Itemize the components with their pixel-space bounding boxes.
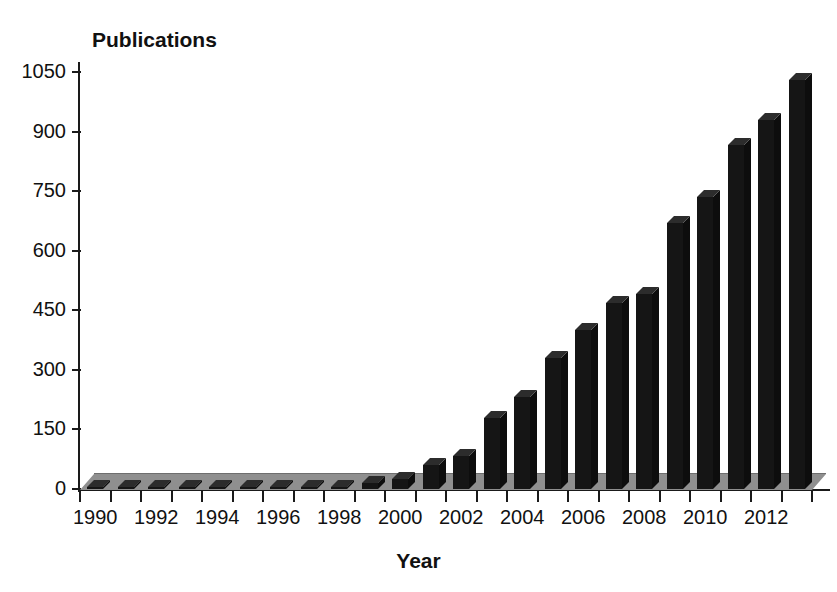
bar-side-face (469, 449, 476, 489)
bar-side-face (713, 190, 720, 489)
bar (453, 456, 469, 489)
x-axis-tick (750, 491, 752, 502)
x-axis-tick-label: 1992 (126, 506, 186, 528)
bar-side-face (805, 73, 812, 489)
x-axis-tick-label: 2000 (370, 506, 430, 528)
bar (179, 487, 195, 489)
bar-side-face (683, 216, 690, 489)
x-axis-tick-label: 1996 (248, 506, 308, 528)
bar-side-face (561, 351, 568, 489)
bar (728, 145, 744, 489)
bar-chart: Publications 01503004506007509001050 199… (0, 0, 837, 592)
y-axis-tick-label: 1050 (0, 61, 66, 81)
bar-side-face (774, 113, 781, 489)
x-axis-tick-label: 2008 (614, 506, 674, 528)
bar (667, 223, 683, 489)
x-axis-tick (201, 491, 203, 502)
bar (148, 487, 164, 489)
x-axis-tick-label: 2012 (736, 506, 796, 528)
x-axis-tick (567, 491, 569, 502)
x-axis-title: Year (0, 549, 837, 573)
bar (575, 330, 591, 489)
x-axis-tick (537, 491, 539, 502)
y-axis-tick (72, 250, 81, 252)
bar (423, 465, 439, 489)
bar-side-face (500, 411, 507, 489)
bar (118, 487, 134, 489)
x-axis-tick (140, 491, 142, 502)
x-axis-tick (232, 491, 234, 502)
x-axis-tick-label: 2002 (431, 506, 491, 528)
x-axis-tick-label: 1990 (65, 506, 125, 528)
bar (789, 80, 805, 489)
y-axis-tick-label: 600 (0, 240, 66, 260)
x-axis-tick (628, 491, 630, 502)
bar (362, 483, 378, 489)
x-axis-tick (445, 491, 447, 502)
x-axis-tick (689, 491, 691, 502)
bar (209, 487, 225, 489)
x-axis-tick (659, 491, 661, 502)
y-axis-tick (72, 71, 81, 73)
x-axis-tick (384, 491, 386, 502)
y-axis-tick-label: 450 (0, 299, 66, 319)
bar (240, 487, 256, 489)
x-axis-tick (171, 491, 173, 502)
x-axis-tick (110, 491, 112, 502)
bar (636, 294, 652, 489)
x-axis-tick (598, 491, 600, 502)
y-axis-tick-label: 0 (0, 478, 66, 498)
y-axis-tick-label: 900 (0, 121, 66, 141)
bar (758, 120, 774, 489)
y-axis-tick (72, 428, 81, 430)
bar (606, 303, 622, 489)
y-axis-title: Publications (92, 28, 217, 52)
x-axis-tick-label: 1994 (187, 506, 247, 528)
x-axis-tick (262, 491, 264, 502)
bar-side-face (622, 296, 629, 489)
y-axis-tick-label: 750 (0, 180, 66, 200)
x-axis-tick-label: 1998 (309, 506, 369, 528)
bar-side-face (744, 138, 751, 489)
x-axis-tick (720, 491, 722, 502)
y-axis-tick-label: 150 (0, 418, 66, 438)
bar-side-face (530, 390, 537, 489)
x-axis-tick (506, 491, 508, 502)
x-axis-tick (415, 491, 417, 502)
x-axis-tick (811, 491, 813, 502)
bar (514, 397, 530, 489)
bar (392, 479, 408, 489)
bar (87, 487, 103, 489)
x-axis-tick (323, 491, 325, 502)
x-axis-tick (79, 491, 81, 502)
bar-side-face (591, 323, 598, 489)
bar (301, 487, 317, 489)
x-axis-tick (476, 491, 478, 502)
bar (331, 487, 347, 489)
y-axis-tick (72, 488, 81, 490)
y-axis-tick-label: 300 (0, 359, 66, 379)
x-axis-tick (781, 491, 783, 502)
x-axis-tick-label: 2010 (675, 506, 735, 528)
bar-side-face (652, 287, 659, 489)
y-axis-tick (72, 190, 81, 192)
bar (270, 487, 286, 489)
x-axis-tick-label: 2004 (492, 506, 552, 528)
x-axis-tick (293, 491, 295, 502)
bar (484, 418, 500, 489)
x-axis-tick (354, 491, 356, 502)
x-axis-tick-label: 2006 (553, 506, 613, 528)
y-axis-tick (72, 369, 81, 371)
y-axis-tick (72, 131, 81, 133)
bar (545, 358, 561, 489)
bar (697, 197, 713, 489)
y-axis-tick (72, 309, 81, 311)
